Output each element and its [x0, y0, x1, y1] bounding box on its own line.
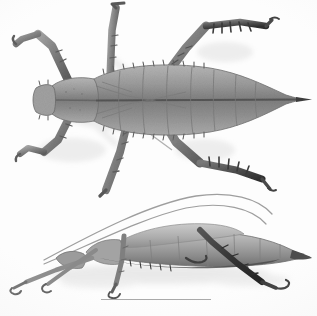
scale-bar [101, 299, 211, 300]
lateral-view-drawing [0, 188, 317, 306]
dorsal-body [33, 60, 312, 140]
scale-bar-group [0, 296, 317, 316]
lateral-body [56, 224, 312, 271]
figure-dorsal-view [0, 0, 317, 200]
median-line [96, 100, 300, 101]
dorsal-view-drawing [0, 0, 317, 200]
head [33, 85, 56, 116]
median-line-thorax [56, 100, 96, 101]
figure-lateral-view [0, 188, 317, 306]
abdomen-tip [296, 97, 312, 102]
abdomen-tip-lateral [290, 250, 312, 260]
foreleg-left [13, 34, 68, 80]
specimen-plate [0, 0, 317, 316]
foreleg-tarsus [10, 288, 21, 294]
